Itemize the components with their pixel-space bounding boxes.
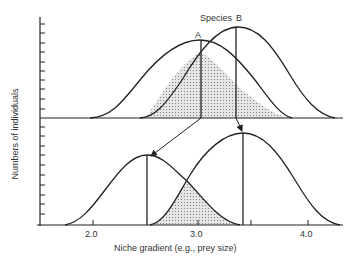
x-tick-label-2: 2.0 [85, 229, 98, 239]
y-axis [40, 17, 45, 226]
arrow-a [151, 118, 201, 156]
x-tick-label-3: 3.0 [190, 229, 203, 239]
top-panel [40, 27, 343, 118]
species-a-label: A [195, 30, 201, 40]
overlap-shading-top [145, 52, 290, 118]
x-axis-label: Niche gradient (e.g., prey size) [114, 243, 237, 253]
arrow-b [236, 118, 242, 131]
species-legend-title: Species [200, 13, 232, 23]
niche-diagram [0, 0, 360, 258]
x-tick-label-4: 4.0 [300, 229, 313, 239]
y-axis-label: Numbers of individuals [10, 88, 20, 179]
species-b-label: B [236, 13, 242, 23]
bottom-panel [37, 133, 343, 225]
overlap-shading-bottom [150, 181, 240, 225]
